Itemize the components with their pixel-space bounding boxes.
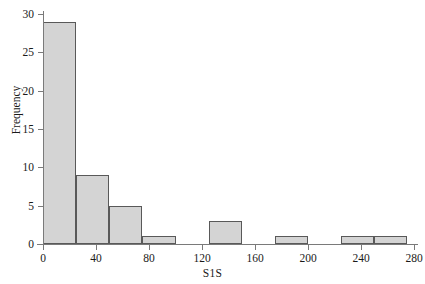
y-tick — [38, 206, 43, 207]
histogram-bar — [341, 236, 374, 244]
y-tick — [38, 244, 43, 245]
x-tick-label: 120 — [182, 252, 222, 264]
x-tick-label: 80 — [129, 252, 169, 264]
y-tick-label: 0 — [6, 238, 34, 250]
x-tick — [202, 245, 203, 250]
x-tick-label: 160 — [235, 252, 275, 264]
y-tick — [38, 129, 43, 130]
x-axis-title: S1S — [0, 267, 425, 279]
y-tick — [38, 52, 43, 53]
y-tick-label: 5 — [6, 200, 34, 212]
plot-area — [43, 14, 414, 244]
x-tick-label: 280 — [394, 252, 425, 264]
y-tick-label: 30 — [6, 8, 34, 20]
histogram-bar — [109, 206, 142, 244]
x-tick-label: 240 — [341, 252, 381, 264]
x-tick — [414, 245, 415, 250]
x-tick-label: 0 — [23, 252, 63, 264]
y-axis-line — [43, 11, 44, 250]
x-tick — [96, 245, 97, 250]
x-tick-label: 40 — [76, 252, 116, 264]
bar-series — [43, 14, 414, 244]
x-tick — [255, 245, 256, 250]
histogram-figure: 04080120160200240280 051015202530 S1S Fr… — [0, 0, 425, 284]
x-tick — [149, 245, 150, 250]
y-tick — [38, 14, 43, 15]
histogram-bar — [374, 236, 407, 244]
y-tick — [38, 91, 43, 92]
histogram-bar — [43, 22, 76, 244]
y-tick — [38, 167, 43, 168]
histogram-bar — [142, 236, 175, 244]
x-tick — [308, 245, 309, 250]
y-axis-title: Frequency — [10, 50, 22, 170]
histogram-bar — [76, 175, 109, 244]
x-tick-label: 200 — [288, 252, 328, 264]
x-tick — [361, 245, 362, 250]
histogram-bar — [275, 236, 308, 244]
histogram-bar — [209, 221, 242, 244]
x-tick — [43, 245, 44, 250]
